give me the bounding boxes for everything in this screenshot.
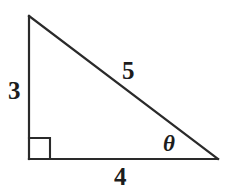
right-angle-marker-icon — [29, 138, 50, 159]
angle-label-theta: θ — [163, 132, 175, 155]
triangle-side-hypotenuse — [29, 16, 218, 159]
side-label-base-leg: 4 — [114, 164, 127, 189]
right-triangle-figure: 3 5 4 θ — [0, 0, 226, 194]
triangle-drawing — [0, 0, 226, 194]
side-label-vertical-leg: 3 — [8, 78, 21, 103]
side-label-hypotenuse: 5 — [122, 58, 135, 83]
